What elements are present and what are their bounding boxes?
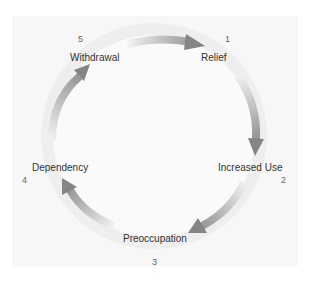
stage-number-4: 4 [22, 175, 27, 185]
stage-number-5: 5 [78, 34, 83, 44]
stage-label-increased-use: Increased Use [218, 162, 282, 174]
stage-label-relief: Relief [201, 52, 227, 64]
stage-number-3: 3 [152, 257, 157, 267]
stage-number-2: 2 [281, 175, 286, 185]
stage-label-dependency: Dependency [32, 162, 88, 174]
stage-label-withdrawal: Withdrawal [70, 52, 119, 64]
stage-label-preoccupation: Preoccupation [123, 233, 187, 245]
stage-number-1: 1 [225, 34, 230, 44]
